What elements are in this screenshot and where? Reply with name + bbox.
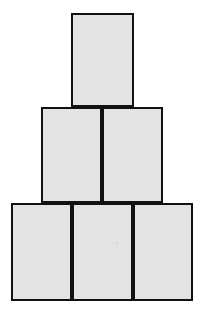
block-middle-left [41, 107, 102, 203]
block-top-center [71, 13, 134, 107]
block-bottom-center [72, 203, 133, 301]
block-bottom-left [11, 203, 72, 301]
block-bottom-right [133, 203, 193, 301]
figure-canvas [0, 0, 215, 318]
block-middle-right [102, 107, 163, 203]
